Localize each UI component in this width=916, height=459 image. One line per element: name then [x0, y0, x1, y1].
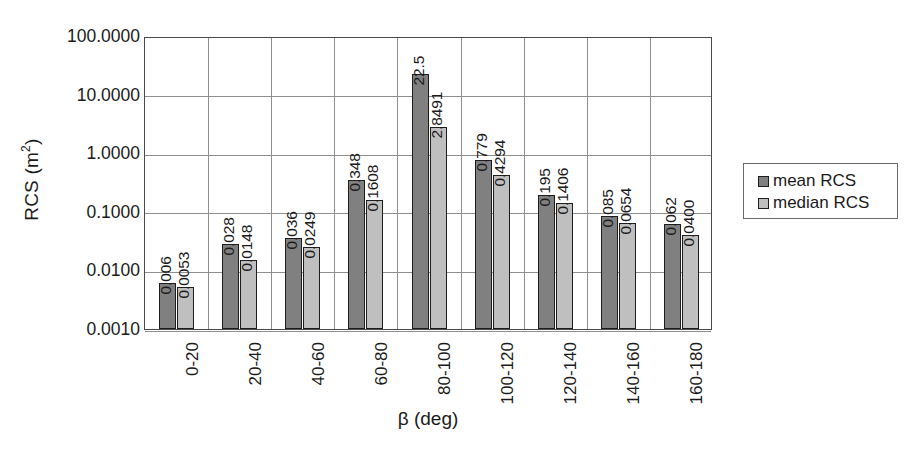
category-separator [524, 38, 525, 329]
plot-area: 0.0060.00530.0280.01480.0360.02490.3480.… [144, 37, 712, 330]
rcs-bar-chart-figure: RCS (m2) 100.000010.00001.00000.10000.01… [0, 0, 916, 459]
bar-value-label: 0.348 [347, 153, 363, 191]
y-axis-title-tail: ) [21, 139, 42, 146]
y-axis-tick-label: 1.0000 [48, 145, 140, 163]
x-axis-tick-label: 80-100 [436, 342, 453, 395]
bar-median [366, 200, 383, 329]
bar-value-label: 2.8491 [428, 91, 444, 138]
bar-mean [475, 160, 492, 329]
y-axis-tick-label: 0.0010 [48, 321, 140, 339]
x-axis-tick-label: 140-160 [625, 342, 642, 404]
y-gridline [145, 331, 711, 332]
bar-median [493, 175, 510, 329]
bar-median [556, 203, 573, 329]
bar-value-label: 0.0249 [302, 212, 318, 259]
category-separator [271, 38, 272, 329]
bar-median [619, 223, 636, 329]
legend-swatch-icon [758, 176, 769, 187]
bar-value-label: 0.0148 [239, 225, 255, 272]
bar-value-label: 0.1608 [365, 164, 381, 211]
legend-item: median RCS [758, 192, 897, 214]
category-separator [650, 38, 651, 329]
bar-value-label: 0.0053 [176, 251, 192, 298]
bar-mean [664, 224, 681, 329]
bar-value-label: 0.0400 [680, 200, 696, 247]
y-axis-tick-label: 100.0000 [48, 28, 140, 46]
y-axis-tick-label: 0.0100 [48, 263, 140, 281]
category-separator [334, 38, 335, 329]
x-axis-tick-label: 60-80 [373, 342, 390, 385]
x-axis-tick-label: 100-120 [499, 342, 516, 404]
bar-value-label: 0.006 [158, 257, 174, 295]
bar-value-label: 0.085 [599, 189, 615, 227]
y-axis-tick-labels: 100.000010.00001.00000.10000.01000.0010 [44, 0, 140, 459]
bar-mean [601, 216, 618, 329]
bar-value-label: 0.028 [221, 217, 237, 255]
bar-value-label: 22.5 [410, 56, 426, 86]
x-axis-tick-label: 0-20 [184, 342, 201, 376]
x-axis-title: β (deg) [144, 408, 712, 430]
x-axis-tick-label: 160-180 [688, 342, 705, 404]
y-axis-title-text: RCS (m [21, 152, 42, 221]
bar-value-label: 0.4294 [491, 139, 507, 186]
y-axis-title-exponent: 2 [19, 145, 33, 152]
bar-value-label: 0.0654 [617, 187, 633, 234]
category-separator [397, 38, 398, 329]
category-separator [461, 38, 462, 329]
y-axis-title: RCS (m2) [19, 105, 42, 255]
bar-value-label: 0.062 [662, 197, 678, 235]
category-separator [587, 38, 588, 329]
chart-legend: mean RCSmedian RCS [743, 163, 898, 219]
bar-median [430, 127, 447, 329]
legend-item: mean RCS [758, 170, 897, 192]
legend-item-label: median RCS [773, 193, 869, 213]
bar-median [303, 247, 320, 329]
y-axis-tick-label: 10.0000 [48, 87, 140, 105]
y-axis-tick-label: 0.1000 [48, 204, 140, 222]
bar-value-label: 0.036 [284, 211, 300, 249]
bar-value-label: 0.195 [536, 168, 552, 206]
category-separator [208, 38, 209, 329]
bar-mean [412, 74, 429, 329]
bar-mean [538, 195, 555, 329]
x-axis-tick-label: 40-60 [310, 342, 327, 385]
legend-item-label: mean RCS [773, 171, 856, 191]
bar-value-label: 0.779 [473, 133, 489, 171]
x-axis-tick-label: 120-140 [562, 342, 579, 404]
x-axis-tick-label: 20-40 [247, 342, 264, 385]
bar-median [682, 235, 699, 329]
bar-value-label: 0.1406 [554, 168, 570, 215]
legend-swatch-icon [758, 198, 769, 209]
